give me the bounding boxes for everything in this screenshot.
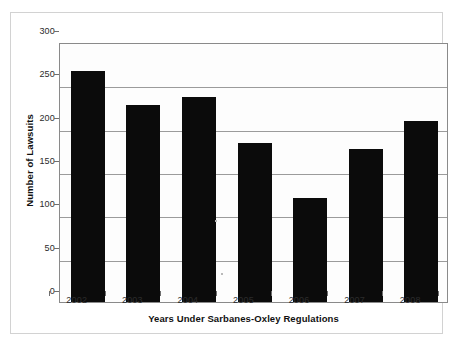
x-tick-label: 2008 bbox=[382, 295, 438, 306]
x-tick-label: 2005 bbox=[216, 295, 272, 306]
bar bbox=[71, 71, 105, 302]
y-tick-label: 50 bbox=[15, 244, 55, 253]
bar-chart-figure: Number of Lawsuits 050100150200250300 20… bbox=[0, 0, 454, 346]
scan-speck bbox=[221, 273, 223, 275]
y-tick-label: 200 bbox=[15, 114, 55, 123]
x-tick-label: 2006 bbox=[271, 295, 327, 306]
x-tick-label: 2007 bbox=[327, 295, 383, 306]
y-tick-label: 250 bbox=[15, 70, 55, 79]
y-tick-label: 300 bbox=[15, 27, 55, 36]
bar bbox=[293, 198, 327, 302]
bar bbox=[126, 105, 160, 302]
bar bbox=[404, 121, 438, 302]
bar bbox=[238, 143, 272, 302]
y-tick-mark bbox=[54, 31, 59, 32]
bar bbox=[349, 149, 383, 302]
x-tick-label: 2004 bbox=[160, 295, 216, 306]
plot-area bbox=[59, 43, 448, 303]
x-tick-label: 2002 bbox=[49, 295, 105, 306]
bars-group bbox=[60, 44, 447, 302]
x-tick-mark bbox=[438, 291, 439, 296]
chart-frame: Number of Lawsuits 050100150200250300 20… bbox=[10, 12, 443, 334]
y-tick-label: 100 bbox=[15, 200, 55, 209]
x-tick-label: 2003 bbox=[105, 295, 161, 306]
x-axis-tick-labels: 2002200320042005200620072008 bbox=[49, 295, 438, 309]
scan-speck bbox=[215, 220, 217, 222]
y-tick-label: 150 bbox=[15, 157, 55, 166]
bar bbox=[182, 97, 216, 302]
x-axis-title: Years Under Sarbanes-Oxley Regulations bbox=[49, 313, 438, 324]
